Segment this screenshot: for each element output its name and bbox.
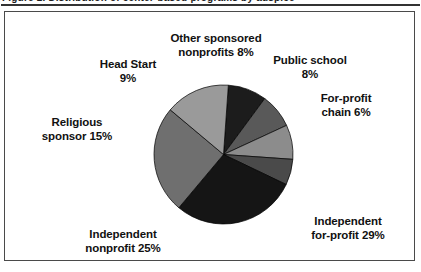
pie-label-public-school: Public school 8%	[260, 54, 360, 81]
pie-label-for-profit-chain: For-profit chain 6%	[301, 92, 391, 119]
pie-label-independent-nonprofit: Independent nonprofit 25%	[61, 228, 185, 255]
pie-label-independent-for-profit: Independent for-profit 29%	[287, 215, 409, 242]
figure-container: Figure 2. Distribution of center-based p…	[0, 0, 421, 272]
pie-label-religious-sponsor: Religious sponsor 15%	[21, 116, 133, 143]
top-rule-divider	[1, 4, 420, 6]
chart-card: Other sponsored nonprofits 8% Head Start…	[4, 11, 415, 261]
pie-chart	[153, 84, 294, 225]
pie-slice-group	[154, 85, 293, 224]
pie-chart-svg	[153, 84, 294, 225]
pie-label-head-start: Head Start 9%	[85, 58, 171, 85]
pie-label-other-sponsored-nonprofits: Other sponsored nonprofits 8%	[156, 32, 276, 59]
